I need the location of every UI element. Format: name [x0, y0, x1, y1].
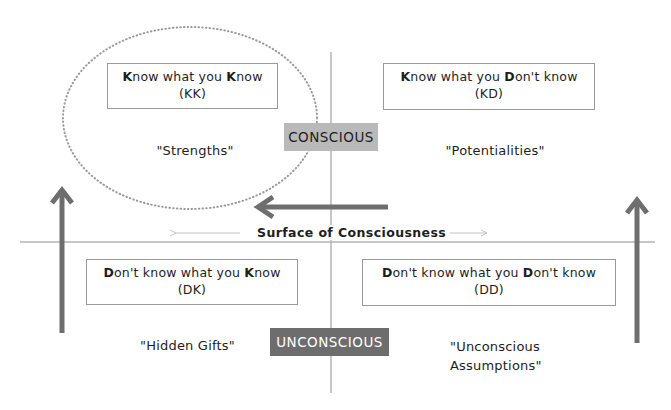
quadrant-title-dk: Don't know what you Know: [87, 264, 297, 281]
quadrant-box-dd: Don't know what you Don't know (DD): [362, 259, 616, 306]
quadrant-code-dd: (DD): [363, 281, 615, 298]
quadrant-box-kd: Know what you Don't know (KD): [383, 63, 595, 110]
quadrant-title-kk: Know what you Know: [108, 68, 277, 85]
conscious-badge: CONSCIOUS: [284, 123, 378, 151]
label-strengths: "Strengths": [135, 143, 255, 158]
label-line-1: "Unconscious: [450, 337, 590, 356]
quadrant-code-dk: (DK): [87, 281, 297, 298]
quadrant-title-dd: Don't know what you Don't know: [363, 264, 615, 281]
quadrant-box-dk: Don't know what you Know (DK): [86, 259, 298, 305]
quadrant-code-kd: (KD): [384, 85, 594, 102]
label-line-2: Assumptions": [450, 356, 590, 375]
quadrant-box-kk: Know what you Know (KK): [107, 63, 278, 109]
left-arrow-icon: [258, 197, 388, 217]
left-up-arrow-icon: [52, 190, 72, 333]
quadrant-code-kk: (KK): [108, 85, 277, 102]
strengths-highlight-ellipse: [63, 27, 317, 209]
right-up-arrow-icon: [627, 200, 647, 343]
label-hidden-gifts: "Hidden Gifts": [125, 338, 250, 353]
label-potentialities: "Potentialities": [430, 143, 560, 158]
unconscious-badge: UNCONSCIOUS: [270, 328, 389, 356]
quadrant-title-kd: Know what you Don't know: [384, 68, 594, 85]
surface-of-consciousness-label: Surface of Consciousness: [253, 225, 450, 240]
label-unconscious-assumptions: "Unconscious Assumptions": [450, 337, 590, 375]
